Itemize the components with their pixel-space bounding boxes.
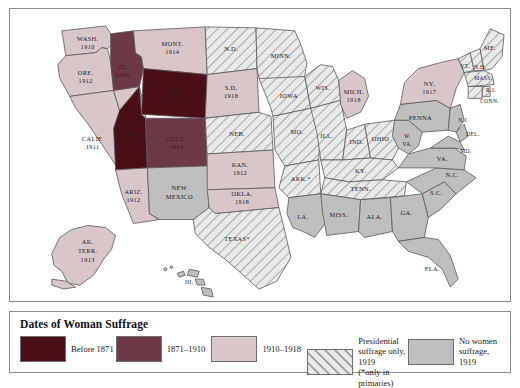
legend-label-1910-1918: 1910–1918 [262, 344, 301, 354]
label-utah: UTAH [121, 134, 140, 141]
label-kentucky: KY. [355, 167, 366, 174]
label-north-dakota: N.D. [224, 45, 238, 52]
label-minnesota: MINN. [271, 52, 291, 59]
label-vermont: VT. [460, 63, 470, 69]
legend-item-before-1871: Before 1871 [20, 336, 116, 362]
label-new-jersey: N.J. [458, 117, 469, 123]
legend-panel: Dates of Woman Suffrage Before 1871 1871… [9, 311, 511, 373]
label-indiana: IND. [349, 138, 363, 145]
state-georgia [390, 194, 428, 242]
us-suffrage-map: WASH. 1910 ORE. 1912 CALIF. 1911 NEV. 19… [10, 9, 510, 301]
label-connecticut: CONN. [480, 98, 499, 104]
label-alabama: ALA. [366, 213, 382, 220]
label-ohio: OHIO [372, 135, 389, 142]
label-florida: FLA. [425, 265, 440, 272]
label-california: CALIF. [82, 135, 104, 142]
legend-items: Before 1871 1871–1910 1910–1918 Presiden… [20, 336, 502, 388]
label-wisconsin: WIS. [315, 84, 330, 91]
label-south-dakota: S.D. [225, 84, 238, 91]
label-illinois: ILL. [320, 132, 333, 139]
label-michigan-date: 1918 [347, 96, 361, 103]
legend-swatch-1871-1910 [116, 336, 162, 362]
label-oregon: ORE. [78, 69, 94, 76]
label-oregon-date: 1912 [79, 77, 93, 84]
legend-item-presidential: Presidential suffrage only, 1919 (*only … [307, 336, 408, 388]
label-montana: MONT. [162, 40, 184, 47]
label-south-dakota-date: 1918 [224, 92, 238, 99]
label-georgia: GA. [400, 209, 412, 216]
label-alaska-line1: AK. [82, 238, 94, 245]
legend-label-before-1871: Before 1871 [71, 344, 114, 354]
label-massachusetts: MASS. [474, 75, 493, 81]
legend-label-1871-1910: 1871–1910 [167, 344, 206, 354]
label-nebraska: NEB. [229, 130, 245, 137]
label-west-virginia-line1: W. [404, 133, 411, 139]
label-new-york-date: 1917 [422, 88, 436, 95]
label-arizona-date: 1912 [126, 196, 140, 203]
label-west-virginia-line2: VA. [403, 141, 413, 147]
label-hawaii: HI. [185, 279, 194, 285]
label-iowa: IOWA [280, 92, 298, 99]
legend-label-presidential: Presidential suffrage only, 1919 (*only … [358, 336, 408, 388]
label-north-carolina: N.C. [446, 171, 459, 178]
label-oklahoma: OKLA. [232, 190, 253, 197]
legend-title: Dates of Woman Suffrage [20, 318, 502, 330]
legend-swatch-before-1871 [20, 336, 66, 362]
legend-label-no-suffrage: No women suffrage, 1919 [459, 336, 502, 367]
state-connecticut [468, 86, 482, 98]
legend-item-no-suffrage: No women suffrage, 1919 [408, 336, 502, 367]
label-idaho-date: 1896 [115, 71, 129, 78]
label-michigan: MICH. [344, 88, 364, 95]
label-idaho: ID. [118, 63, 127, 70]
label-new-hampshire: N.H. [474, 64, 486, 70]
label-maine: ME. [484, 44, 496, 51]
label-kansas: KAN. [232, 161, 249, 168]
legend-swatch-presidential [307, 349, 353, 375]
label-alaska-date: 1913 [81, 256, 95, 263]
label-maryland: MD. [460, 148, 472, 154]
label-new-york: NY. [424, 80, 435, 87]
label-texas: TEXAS* [224, 235, 250, 242]
label-washington: WASH. [77, 35, 98, 42]
label-wyoming-date: 1869 [167, 96, 181, 103]
label-utah-date: 1870 [123, 142, 137, 149]
label-washington-date: 1910 [81, 43, 95, 50]
label-alaska-line2: TERR. [78, 247, 98, 254]
label-new-mexico-line1: NEW [172, 184, 188, 191]
label-california-date: 1911 [86, 143, 100, 150]
label-arkansas: ARK.* [291, 175, 311, 182]
label-wyoming: WYO. [165, 88, 183, 95]
label-tennessee: TENN. [350, 185, 370, 192]
label-louisiana: LA. [297, 213, 308, 220]
label-mississippi: MISS. [330, 211, 348, 218]
label-virginia: VA. [437, 155, 448, 162]
label-nevada: NEV. [121, 123, 136, 130]
map-panel: WASH. 1910 ORE. 1912 CALIF. 1911 NEV. 19… [9, 8, 511, 302]
legend-item-1910-1918: 1910–1918 [211, 336, 307, 362]
label-south-carolina: S.C. [430, 189, 442, 196]
legend-swatch-1910-1918 [211, 336, 257, 362]
label-arizona: ARIZ. [124, 188, 142, 195]
label-colorado: COLO. [166, 135, 187, 142]
label-new-mexico-line2: MEXICO [166, 193, 193, 200]
label-montana-date: 1914 [165, 48, 180, 55]
label-rhode-island: R.I. [486, 87, 496, 93]
label-colorado-date: 1893 [169, 143, 183, 150]
label-pennsylvania: PENNA [409, 114, 432, 121]
legend-item-1871-1910: 1871–1910 [116, 336, 212, 362]
label-kansas-date: 1912 [233, 169, 247, 176]
label-delaware: DEL. [466, 131, 480, 137]
label-missouri: MO. [290, 128, 303, 135]
label-oklahoma-date: 1918 [235, 198, 249, 205]
legend-swatch-no-suffrage [408, 339, 454, 365]
